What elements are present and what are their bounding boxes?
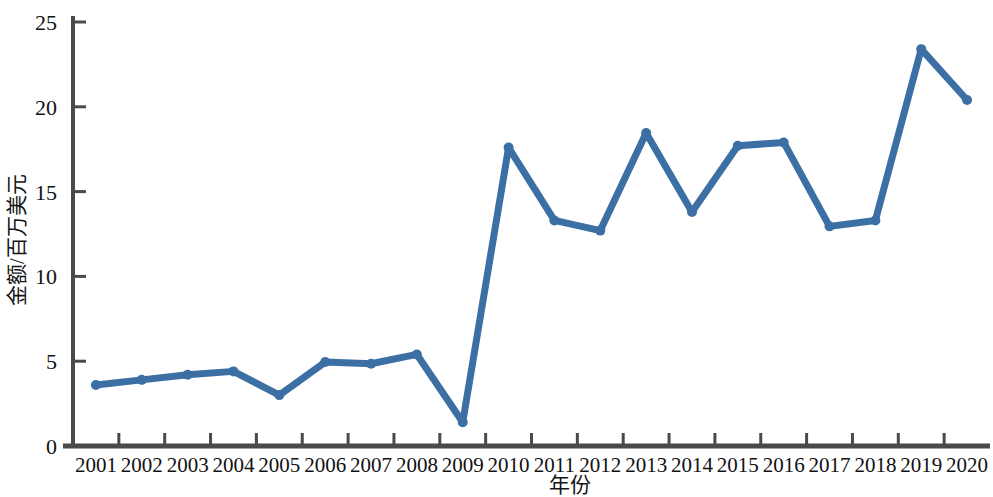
x-axis-tick-label: 2020: [946, 453, 988, 477]
x-axis-tick-label: 2006: [304, 453, 346, 477]
data-point-marker: [962, 95, 972, 105]
x-axis-tick-label: 2007: [350, 453, 392, 477]
chart-background: [0, 0, 993, 497]
x-axis-tick-label: 2001: [75, 453, 117, 477]
y-axis-tick-label: 15: [35, 180, 57, 205]
y-axis-title: 金额/百万美元: [5, 174, 29, 306]
x-axis-tick-label: 2019: [900, 453, 942, 477]
x-axis-tick-label: 2008: [396, 453, 438, 477]
data-point-marker: [870, 215, 880, 225]
x-axis-tick-label: 2016: [763, 453, 805, 477]
x-axis-tick-label: 2003: [167, 453, 209, 477]
data-point-marker: [504, 143, 514, 153]
data-point-marker: [137, 375, 147, 385]
y-axis-tick-label: 5: [46, 349, 57, 374]
chart-canvas: 0510152025 20012002200320042005200620072…: [0, 0, 993, 497]
x-axis-tick-label: 2017: [809, 453, 851, 477]
data-point-marker: [733, 141, 743, 151]
data-point-marker: [458, 417, 468, 427]
data-point-marker: [779, 137, 789, 147]
data-point-marker: [687, 207, 697, 217]
data-point-marker: [549, 215, 559, 225]
data-point-marker: [825, 221, 835, 231]
x-axis-tick-label: 2005: [258, 453, 300, 477]
y-axis-tick-label: 0: [46, 434, 57, 459]
y-axis-tick-label: 10: [35, 264, 57, 289]
data-point-marker: [320, 357, 330, 367]
data-point-marker: [183, 370, 193, 380]
data-point-marker: [595, 226, 605, 236]
data-point-marker: [91, 380, 101, 390]
x-axis-tick-label: 2010: [488, 453, 530, 477]
y-axis-tick-label: 25: [35, 10, 57, 35]
x-axis-tick-label: 2009: [442, 453, 484, 477]
x-axis-tick-label: 2015: [717, 453, 759, 477]
x-axis-tick-label: 2013: [625, 453, 667, 477]
y-axis-tick-label: 20: [35, 95, 57, 120]
x-axis-tick-label: 2014: [671, 453, 714, 477]
x-axis-title: 年份: [549, 473, 591, 497]
data-point-marker: [916, 44, 926, 54]
data-point-marker: [366, 359, 376, 369]
x-axis-tick-label: 2018: [854, 453, 896, 477]
data-point-marker: [641, 128, 651, 138]
x-axis-tick-label: 2004: [212, 453, 255, 477]
data-point-marker: [228, 366, 238, 376]
data-point-marker: [412, 349, 422, 359]
data-point-marker: [274, 390, 284, 400]
x-axis-tick-label: 2002: [121, 453, 163, 477]
line-chart: 0510152025 20012002200320042005200620072…: [0, 0, 993, 497]
